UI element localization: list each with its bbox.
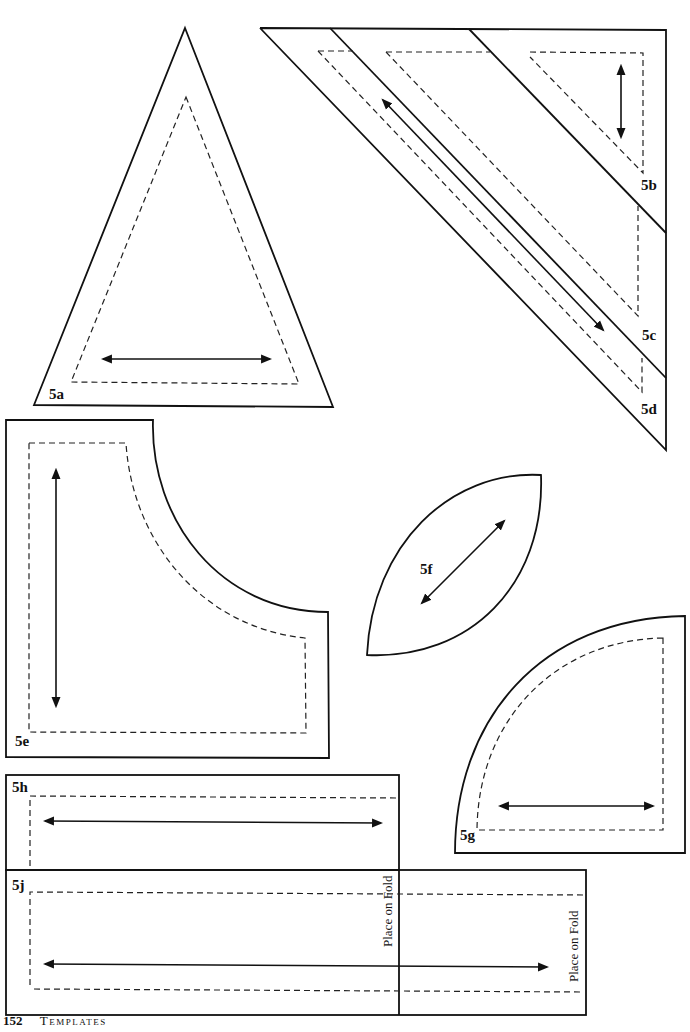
grain-arrow-icon (45, 821, 381, 823)
template-5a: 5a (34, 28, 333, 407)
template-label-5b: 5b (641, 177, 657, 193)
place-on-fold-5j: Place on Fold (566, 910, 581, 982)
section-title: Templates (40, 1013, 107, 1028)
place-on-fold-5h: Place on Fold (380, 875, 395, 947)
template-5f: 5f (367, 475, 541, 655)
template-5g: 5g (455, 616, 685, 853)
template-label-5j: 5j (12, 877, 25, 893)
template-label-5a: 5a (49, 386, 65, 402)
template-5e: 5e (6, 420, 329, 758)
template-label-5d: 5d (641, 401, 658, 417)
template-label-5h: 5h (12, 779, 29, 795)
template-5b-5c-5d: 5b 5c 5d (260, 28, 666, 450)
page-number: 152 (3, 1013, 23, 1028)
template-label-5e: 5e (15, 733, 30, 749)
template-5j: 5j Place on Fold (6, 870, 586, 1015)
template-5h: 5h Place on Fold (6, 775, 399, 947)
grain-arrow-icon (45, 964, 547, 967)
templates-page: 5a 5b 5c 5d 5e 5f 5g (0, 0, 690, 1032)
page-footer: 152 Templates (3, 1013, 107, 1029)
template-label-5f: 5f (420, 561, 434, 577)
template-label-5c: 5c (642, 327, 657, 343)
template-label-5g: 5g (460, 827, 476, 843)
grain-arrow-icon (422, 521, 504, 603)
